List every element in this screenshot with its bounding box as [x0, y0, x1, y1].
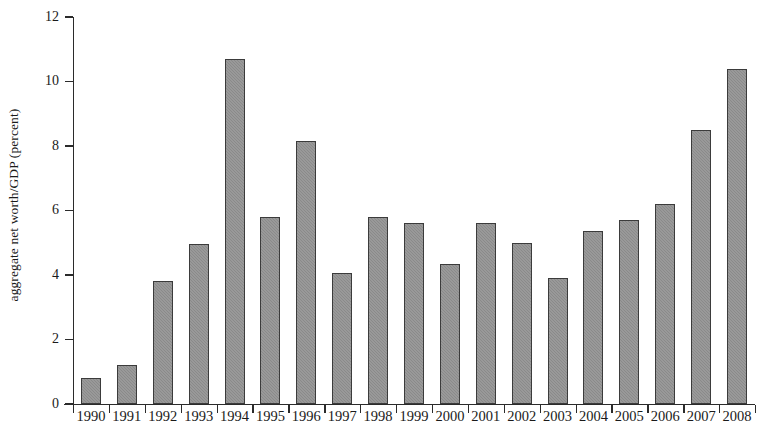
x-axis-label: 2001 [471, 409, 500, 424]
y-axis-tick: 4 [65, 274, 73, 275]
x-axis-label: 2000 [435, 409, 464, 424]
x-axis-label: 1993 [184, 409, 213, 424]
x-axis-line [64, 404, 755, 405]
bar [476, 223, 496, 404]
x-axis-tick [755, 405, 756, 413]
y-axis-tick-label: 0 [52, 397, 59, 411]
y-axis-tick-label: 4 [52, 268, 59, 282]
y-axis-tick-label: 8 [52, 139, 59, 153]
x-axis-label: 2008 [723, 409, 752, 424]
x-axis-label: 2004 [579, 409, 608, 424]
x-axis-label: 1995 [256, 409, 285, 424]
x-axis-label: 1990 [76, 409, 105, 424]
y-axis-tick-label: 2 [52, 332, 59, 346]
x-axis-label: 1999 [400, 409, 429, 424]
bar [691, 130, 711, 404]
bar [81, 378, 101, 404]
bar [189, 244, 209, 404]
plot-area: 024681012 [73, 17, 755, 404]
x-axis-label: 1996 [292, 409, 321, 424]
y-axis-tick-label: 6 [52, 203, 59, 217]
bar-chart: aggregate net worth/GDP (percent) 024681… [0, 0, 762, 443]
x-axis-label: 2007 [687, 409, 716, 424]
x-axis-label: 1998 [364, 409, 393, 424]
bar [512, 243, 532, 404]
bar [548, 278, 568, 404]
x-axis-label: 2003 [543, 409, 572, 424]
y-axis-tick: 6 [65, 210, 73, 211]
y-axis-tick: 8 [65, 145, 73, 146]
x-axis-label: 1994 [220, 409, 249, 424]
x-axis-label: 2002 [507, 409, 536, 424]
bar [225, 59, 245, 404]
y-axis-tick: 0 [65, 403, 73, 404]
x-axis-label: 1991 [112, 409, 141, 424]
bar [296, 141, 316, 404]
y-axis-tick-label: 12 [45, 10, 59, 24]
bar [117, 365, 137, 404]
y-axis-title: aggregate net worth/GDP (percent) [0, 0, 28, 410]
bar [727, 69, 747, 404]
y-axis-title-text: aggregate net worth/GDP (percent) [6, 109, 22, 302]
bar [404, 223, 424, 404]
bar [655, 204, 675, 404]
y-axis-tick-label: 10 [45, 74, 59, 88]
x-axis-label: 1997 [328, 409, 357, 424]
y-axis-tick: 2 [65, 339, 73, 340]
y-axis-tick: 10 [65, 81, 73, 82]
bar [583, 231, 603, 404]
bar [368, 217, 388, 404]
bar [153, 281, 173, 404]
y-axis-line [73, 17, 74, 404]
x-axis-label: 2005 [615, 409, 644, 424]
x-axis-label: 2006 [651, 409, 680, 424]
bar [260, 217, 280, 404]
bar [440, 264, 460, 404]
x-axis-label: 1992 [148, 409, 177, 424]
bar [332, 273, 352, 404]
x-axis-labels: 1990199119921993199419951996199719981999… [73, 409, 755, 433]
y-axis-tick: 12 [65, 16, 73, 17]
bar [619, 220, 639, 404]
